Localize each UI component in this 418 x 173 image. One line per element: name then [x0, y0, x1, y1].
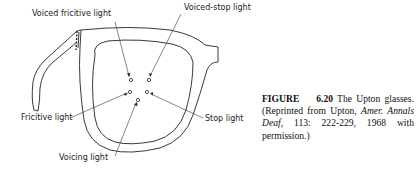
voiced-fricitive-light-icon [129, 78, 132, 81]
figure-number: 6.20 [316, 93, 333, 104]
voicing-light-label: Voicing light [59, 153, 108, 162]
voiced-stop-light-icon [147, 78, 150, 81]
stop-light-label: Stop light [205, 114, 243, 123]
lights [128, 78, 150, 101]
figure-label: FIGURE [262, 93, 299, 104]
stop-light-icon [145, 90, 148, 93]
caption-source: (Reprinted from Upton, [262, 105, 357, 116]
glasses-drawing [0, 0, 260, 173]
fricitive-light-icon [128, 90, 131, 93]
voicing-light-icon [136, 98, 139, 101]
voiced-stop-light-label: Voiced-stop light [184, 3, 251, 12]
upton-glasses-figure: Voiced fricitive light Voiced-stop light… [0, 0, 260, 173]
caption-title: The Upton glasses. [337, 93, 414, 104]
voiced-fricitive-light-label: Voiced fricitive light [32, 9, 111, 18]
caption-citation: 113: 222-229, 1968 with permission.) [262, 117, 414, 140]
fricitive-light-label: Fricitive light [21, 113, 72, 122]
figure-caption: FIGURE 6.20 The Upton glasses. (Reprinte… [262, 93, 414, 142]
